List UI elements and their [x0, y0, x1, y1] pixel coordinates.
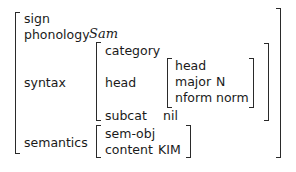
head-type: head	[175, 59, 206, 73]
feature-major-value: N	[216, 75, 225, 89]
outer-left-bracket	[15, 12, 20, 154]
feature-major-label: major	[175, 75, 211, 89]
syntax-type-category: category	[105, 44, 160, 58]
feature-phonology-value: Sam	[89, 27, 118, 41]
feature-nform-value: norm	[216, 91, 249, 105]
feature-content-label: content	[105, 143, 153, 157]
feature-subcat-label: subcat	[105, 109, 147, 123]
outer-right-bracket	[276, 8, 281, 158]
feature-syntax-label: syntax	[24, 76, 66, 90]
feature-semantics-label: semantics	[24, 136, 88, 150]
feature-head-label: head	[105, 76, 136, 90]
head-right-bracket	[249, 58, 254, 108]
semantics-left-bracket	[96, 125, 101, 158]
syntax-right-bracket	[264, 43, 269, 121]
semantics-type-sem-obj: sem-obj	[105, 127, 155, 141]
semantics-right-bracket	[186, 125, 191, 158]
head-left-bracket	[167, 58, 172, 108]
feature-nform-label: nform	[175, 91, 212, 105]
feature-content-value: KIM	[158, 143, 181, 157]
syntax-left-bracket	[96, 42, 101, 121]
avm-type-sign: sign	[24, 12, 50, 26]
feature-subcat-value: nil	[163, 109, 178, 123]
feature-phonology-label: phonology	[24, 28, 90, 42]
